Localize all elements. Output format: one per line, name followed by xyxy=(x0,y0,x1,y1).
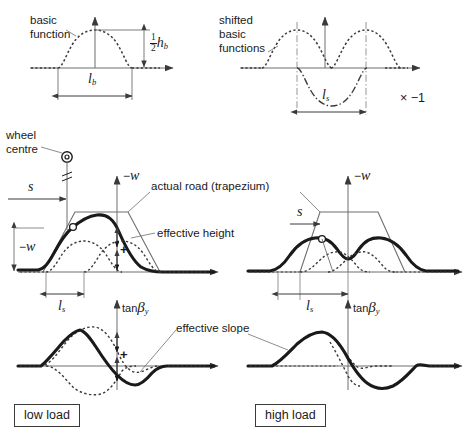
s-symbol: s xyxy=(297,204,302,219)
beta-subscript: y xyxy=(145,306,149,316)
wheel-centre-hub xyxy=(65,155,69,159)
actual-road-label: actual road (trapezium) xyxy=(151,180,269,193)
ll-contact-point xyxy=(70,224,77,231)
beta-symbol: β xyxy=(137,299,144,315)
beta-symbol: β xyxy=(368,299,375,315)
ll-ls-label: ls xyxy=(58,299,65,316)
hl-minus-w-axis-label: −w xyxy=(354,169,370,183)
shifted-function-inverted xyxy=(297,68,367,106)
basic-width-label: lb xyxy=(88,72,96,89)
basic-function-label-line1: basic xyxy=(30,14,57,27)
hl-effslope-leader xyxy=(248,334,288,350)
h-symbol: h xyxy=(157,35,164,50)
one-half-fraction: 12 xyxy=(150,33,157,53)
tan-text: tan xyxy=(353,302,368,314)
shifted-ls-label: ls xyxy=(322,88,329,105)
w-symbol: w xyxy=(361,168,370,183)
l-subscript: b xyxy=(92,77,96,87)
shifted-label-line3: functions xyxy=(219,42,265,55)
w-symbol: w xyxy=(130,168,139,183)
times-minus-one-label: × −1 xyxy=(400,92,425,105)
hl-s-label: s xyxy=(297,205,302,219)
shifted-label-line1: shifted xyxy=(219,14,253,27)
ll-plus-slope: + xyxy=(120,348,128,361)
effective-height-label: effective height xyxy=(157,227,234,240)
hl-basic-hump-right xyxy=(328,252,396,272)
ll-effective-slope-curve xyxy=(18,330,214,385)
panel-high-load-height xyxy=(248,176,462,300)
l-subscript: s xyxy=(62,304,65,314)
wheel-centre-label-line1: wheel xyxy=(6,129,36,142)
high-load-box: high load xyxy=(255,404,326,427)
l-subscript: s xyxy=(326,93,329,103)
panel-low-load-height xyxy=(8,147,218,298)
s-symbol: s xyxy=(28,179,33,194)
ll-trapezium-leader xyxy=(128,192,150,212)
ll-minus-w-axis-label: −w xyxy=(123,169,139,183)
wheel-centre-marker xyxy=(62,152,72,162)
hl-trapezium-leader xyxy=(300,192,320,212)
basic-function-label-line2: function xyxy=(30,28,70,41)
tan-text: tan xyxy=(122,302,137,314)
basic-height-label: 12 hb xyxy=(150,33,168,53)
ll-effheight-leader xyxy=(131,233,155,238)
effective-slope-label: effective slope xyxy=(176,322,249,335)
hl-actual-road-trapezium xyxy=(300,212,405,272)
panel-shifted-basic-functions xyxy=(240,17,420,115)
hl-effective-slope-curve xyxy=(248,332,458,388)
w-symbol: w xyxy=(26,239,35,254)
hl-tan-beta-label: tanβy xyxy=(353,301,380,318)
hl-slope-ref-b xyxy=(330,342,360,386)
l-subscript: s xyxy=(310,304,313,314)
shifted-label-line2: basic xyxy=(219,28,246,41)
wheel-centre-leader xyxy=(41,147,62,153)
hl-basic-hump-left xyxy=(300,252,370,272)
ll-plus-height: + xyxy=(120,243,128,256)
low-load-box: low load xyxy=(14,404,80,427)
beta-subscript: y xyxy=(376,306,380,316)
wheel-centre-label-line2: centre xyxy=(6,143,38,156)
ll-effective-height-curve xyxy=(18,215,214,272)
ll-tan-beta-label: tanβy xyxy=(122,301,149,318)
hl-effective-height-curve xyxy=(248,238,458,271)
h-subscript: b xyxy=(164,41,168,51)
panel-low-load-slope xyxy=(18,300,218,395)
ll-s-label: s xyxy=(28,180,33,194)
ll-minus-w-dim-label: −w xyxy=(19,240,35,254)
technical-figure xyxy=(0,0,470,440)
hl-ls-label: ls xyxy=(306,299,313,316)
